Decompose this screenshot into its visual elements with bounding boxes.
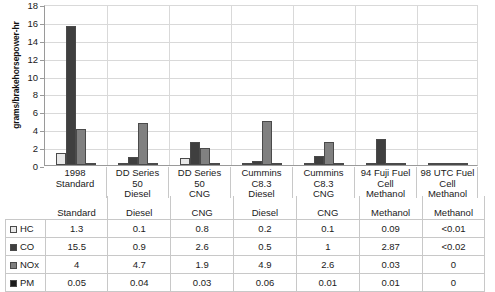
legend-label: CO: [20, 241, 34, 252]
table-cell: 1.3: [46, 220, 108, 238]
bar-nox: [386, 163, 396, 165]
bar-co: [252, 161, 262, 165]
y-axis-tick-label: 8: [33, 91, 38, 101]
table-column-header-line: Standard: [46, 208, 108, 218]
category-label: DD Series50CNG: [168, 167, 230, 198]
table-column-header: Methanol: [359, 196, 422, 220]
table-cell: 0.5: [234, 238, 297, 256]
category-separator: [169, 6, 170, 165]
category-label-line: Standard: [44, 179, 106, 190]
legend-swatch-icon: [10, 226, 17, 233]
table-column-header-line: Methanol: [360, 208, 422, 218]
table-cell: 0.09: [359, 220, 422, 238]
table-cell: 2.6: [296, 256, 359, 274]
table-row: NOx44.71.94.92.60.030: [6, 256, 485, 274]
legend-label: HC: [20, 223, 34, 234]
bar-hc: [242, 163, 252, 165]
y-axis-tick-label: 2: [33, 144, 38, 154]
data-table-container: StandardDieselCNGDieselCNGMethanolMethan…: [5, 196, 478, 284]
legend-label: NOx: [20, 259, 39, 270]
table-cell: 4: [46, 256, 108, 274]
table-cell: 1.9: [171, 256, 234, 274]
legend-swatch-icon: [10, 262, 17, 269]
bar-pm: [210, 163, 220, 165]
category-label-line: Cummins: [231, 168, 292, 179]
table-cell: 0: [422, 274, 485, 292]
table-cell: 2.6: [171, 238, 234, 256]
y-axis-tick-label: 12: [27, 55, 38, 65]
bar-co: [190, 142, 200, 165]
grid-line: [45, 113, 477, 114]
category-label: 98 UTC FuelCellMethanol: [416, 167, 478, 198]
grid-line: [45, 42, 477, 43]
y-axis-tick-label: 16: [27, 19, 38, 29]
table-cell: 4.7: [108, 256, 171, 274]
bar-pm: [86, 163, 96, 165]
table-row: PM0.050.040.030.060.010.010: [6, 274, 485, 292]
table-cell: 0.04: [108, 274, 171, 292]
bar-nox: [448, 163, 458, 165]
bar-hc: [118, 163, 128, 165]
table-cell: 0.05: [46, 274, 108, 292]
data-table-header-row: StandardDieselCNGDieselCNGMethanolMethan…: [6, 196, 485, 220]
bar-co: [438, 163, 448, 165]
y-axis-tick-label: 14: [27, 37, 38, 47]
bar-hc: [428, 163, 438, 165]
grid-line: [45, 131, 477, 132]
bar-pm: [396, 163, 406, 165]
bar-hc: [366, 163, 376, 165]
category-separator: [107, 6, 108, 165]
bar-nox: [76, 129, 86, 165]
table-column-header-line: Diesel: [234, 208, 296, 218]
table-cell: 0.03: [359, 256, 422, 274]
bar-pm: [148, 163, 158, 165]
category-separator: [355, 6, 356, 165]
table-column-header: Standard: [46, 196, 108, 220]
category-separator: [231, 6, 232, 165]
data-table-head: StandardDieselCNGDieselCNGMethanolMethan…: [6, 196, 485, 220]
table-cell: <0.02: [422, 238, 485, 256]
category-axis-labels: 1998StandardDD Series50DieselDD Series50…: [44, 167, 478, 198]
legend-entry-nox: NOx: [6, 256, 46, 274]
table-cell: 0.2: [234, 220, 297, 238]
category-label-line: DD Series: [107, 168, 168, 179]
legend-entry-co: CO: [6, 238, 46, 256]
table-cell: 0.03: [171, 274, 234, 292]
bar-hc: [180, 158, 190, 165]
table-cell: <0.01: [422, 220, 485, 238]
bar-pm: [272, 163, 282, 165]
table-corner-cell: [6, 196, 46, 220]
category-label: 94 Fuji FuelCellMethanol: [354, 167, 416, 198]
table-cell: 0.8: [171, 220, 234, 238]
category-label-line: 1998: [44, 168, 106, 179]
bar-pm: [334, 163, 344, 165]
table-column-header-line: Methanol: [423, 208, 485, 218]
table-cell: 0: [422, 256, 485, 274]
category-separator: [417, 6, 418, 165]
table-cell: 0.01: [296, 274, 359, 292]
bar-nox: [324, 142, 334, 165]
grid-line: [45, 60, 477, 61]
table-column-header: Diesel: [108, 196, 171, 220]
legend-swatch-icon: [10, 244, 17, 251]
grid-line: [45, 149, 477, 150]
y-axis-ticks: 024681012141618: [0, 5, 44, 166]
category-label: CumminsC8.3Diesel: [230, 167, 292, 198]
category-label-line: 98 UTC Fuel: [417, 168, 478, 179]
legend-entry-pm: PM: [6, 274, 46, 292]
bar-nox: [200, 148, 210, 165]
table-row: HC1.30.10.80.20.10.09<0.01: [6, 220, 485, 238]
category-label: CumminsC8.3CNG: [292, 167, 354, 198]
bar-co: [66, 26, 76, 165]
bar-co: [314, 156, 324, 165]
table-column-header: Diesel: [234, 196, 297, 220]
category-label-line: DD Series: [169, 168, 230, 179]
bar-nox: [138, 123, 148, 165]
y-axis-tick-label: 6: [33, 109, 38, 119]
category-label: DD Series50Diesel: [106, 167, 168, 198]
grid-line: [45, 95, 477, 96]
data-table: StandardDieselCNGDieselCNGMethanolMethan…: [5, 196, 485, 292]
table-column-header-line: CNG: [171, 208, 233, 218]
y-axis-tick-label: 10: [27, 73, 38, 83]
